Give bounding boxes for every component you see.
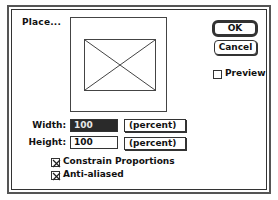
constrain-proportions-checkbox[interactable] bbox=[51, 158, 60, 167]
checkmark-x-icon bbox=[52, 159, 61, 168]
constrain-proportions-label: Constrain Proportions bbox=[63, 156, 175, 166]
preview-checkbox[interactable] bbox=[213, 70, 222, 79]
image-placeholder-icon bbox=[71, 18, 168, 113]
height-label: Height: bbox=[22, 137, 66, 147]
dialog-title: Place... bbox=[22, 17, 61, 27]
anti-aliased-label: Anti-aliased bbox=[63, 169, 124, 179]
ok-button[interactable]: OK bbox=[212, 20, 258, 37]
height-unit-popup[interactable]: (percent) bbox=[124, 137, 186, 150]
width-input[interactable]: 100 bbox=[70, 119, 118, 132]
anti-aliased-checkbox[interactable] bbox=[51, 171, 60, 180]
image-preview bbox=[70, 17, 167, 112]
height-input[interactable]: 100 bbox=[70, 136, 118, 149]
width-unit-popup[interactable]: (percent) bbox=[124, 119, 186, 132]
preview-label: Preview bbox=[225, 68, 266, 78]
cancel-button[interactable]: Cancel bbox=[214, 40, 257, 55]
checkmark-x-icon bbox=[52, 172, 61, 181]
width-label: Width: bbox=[22, 120, 66, 130]
